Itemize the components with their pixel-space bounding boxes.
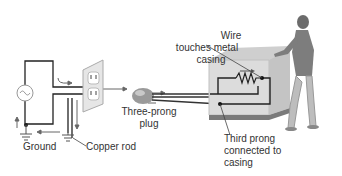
label-three-prong-2: plug <box>118 118 180 130</box>
wall-outlet <box>83 60 103 112</box>
three-prong-plug <box>132 88 154 104</box>
label-wire-touches-2: touches metal <box>171 42 243 54</box>
label-third-prong-3: casing <box>224 157 253 169</box>
label-copper-rod: Copper rod <box>86 141 136 153</box>
label-third-prong-1: Third prong <box>224 133 275 145</box>
label-third-prong-2: connected to <box>224 145 281 157</box>
label-ground: Ground <box>23 141 56 153</box>
ac-source-icon <box>17 85 33 101</box>
label-three-prong-1: Three-prong <box>118 106 180 118</box>
label-wire-touches-3: casing <box>181 54 241 66</box>
label-wire-touches-1: Wire <box>201 30 261 42</box>
ground-symbol-icon <box>20 125 32 140</box>
